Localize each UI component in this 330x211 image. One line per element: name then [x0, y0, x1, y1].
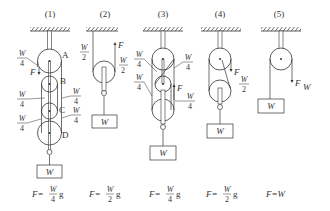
- fraction-denominator: 2: [242, 85, 246, 94]
- fraction-denominator: 2: [108, 195, 112, 204]
- tension-label: W 4: [17, 49, 37, 68]
- fraction-denominator: 4: [168, 195, 172, 204]
- fraction-numerator: W: [136, 73, 144, 82]
- leader-line: [144, 82, 152, 96]
- hook-icon: [218, 105, 223, 110]
- pulley-systems-figure: (1) W F A B C D: [0, 0, 330, 211]
- fraction-denominator: 4: [188, 102, 192, 111]
- tension-label: W 4: [17, 114, 41, 133]
- panel-1-title: (1): [45, 9, 56, 19]
- arrow-down-icon: [230, 69, 233, 72]
- fraction-denominator: 2: [82, 53, 86, 62]
- fraction-denominator: 4: [51, 195, 55, 204]
- pulley-label-d: D: [62, 130, 69, 140]
- fraction-numerator: W: [19, 49, 27, 58]
- hook-icon: [161, 125, 166, 130]
- force-value-label: W: [303, 82, 312, 92]
- formula-4: F= W 2 g: [205, 185, 238, 204]
- tension-label: W 4: [134, 73, 152, 96]
- ceiling-hatch: [261, 27, 301, 31]
- fraction-numerator: W: [19, 114, 27, 123]
- formula-suffix: g: [233, 189, 238, 199]
- fraction-numerator: W: [187, 92, 195, 101]
- tension-label: W 2: [119, 56, 128, 75]
- fraction-denominator: 4: [186, 63, 190, 72]
- panel-2-title: (2): [100, 9, 111, 19]
- tension-label: W 4: [62, 87, 81, 106]
- ceiling-hatch: [143, 27, 183, 31]
- arrow-down-icon: [291, 80, 294, 83]
- fraction-numerator: W: [81, 43, 89, 52]
- force-label: F: [233, 67, 240, 77]
- force-label: F: [117, 40, 124, 50]
- formula-lhs: F=: [148, 189, 161, 199]
- tension-label: W 2: [239, 75, 249, 94]
- force-label: F: [294, 78, 301, 88]
- fraction-denominator: 4: [74, 97, 78, 106]
- panel-4-title: (4): [215, 9, 226, 19]
- leader-line: [27, 98, 45, 99]
- formula-text: F=W: [265, 189, 287, 199]
- formula-lhs: F=: [88, 189, 101, 199]
- formula-suffix: g: [176, 189, 181, 199]
- formula-suffix: g: [116, 189, 121, 199]
- panel-5: (5) F W W: [258, 9, 312, 113]
- hanger: [102, 67, 106, 91]
- arrow-down-icon: [38, 72, 41, 75]
- fraction-numerator: W: [73, 87, 81, 96]
- fraction-denominator: 2: [121, 66, 125, 75]
- formula-lhs: F=: [205, 189, 218, 199]
- fraction-denominator: 4: [20, 59, 24, 68]
- panel-4: (4) F W W 2: [201, 9, 249, 138]
- formula-2: F= W 2 g: [88, 185, 121, 204]
- force-label: F: [29, 67, 36, 77]
- fraction-denominator: 2: [225, 195, 229, 204]
- force-label: F: [176, 83, 183, 93]
- fraction-denominator: 4: [20, 100, 24, 109]
- fraction-numerator: W: [136, 50, 144, 59]
- tension-label: W 2: [80, 43, 89, 62]
- ceiling-hatch: [30, 27, 70, 31]
- fraction-numerator: W: [185, 53, 193, 62]
- leader-line: [27, 58, 37, 65]
- pulley-label-c: C: [59, 105, 65, 115]
- fraction-numerator: W: [19, 90, 27, 99]
- fraction-numerator: W: [120, 56, 128, 65]
- leader-line: [62, 115, 71, 118]
- formula-lhs: F=: [31, 189, 44, 199]
- arrow-up-icon: [173, 84, 176, 87]
- fraction-numerator: W: [224, 185, 232, 194]
- formula-1: F= W 4 g: [31, 185, 64, 204]
- panel-3: (3) F W W 4 W: [134, 9, 195, 160]
- fraction-denominator: 4: [20, 124, 24, 133]
- hanger: [161, 90, 165, 124]
- fraction-numerator: W: [241, 75, 249, 84]
- fraction-numerator: W: [50, 185, 58, 194]
- arrow-up-icon: [114, 42, 117, 45]
- tension-label: W 4: [175, 92, 195, 111]
- fraction-denominator: 4: [74, 116, 78, 125]
- fraction-numerator: W: [107, 185, 115, 194]
- panel-3-title: (3): [158, 9, 169, 19]
- leader-line: [62, 96, 71, 98]
- formula-3: F= W 4 g: [148, 185, 181, 204]
- tension-label: W 4: [174, 53, 193, 72]
- ceiling-hatch: [201, 27, 241, 31]
- hook-icon: [102, 91, 107, 96]
- pulley-label-a: A: [62, 50, 69, 60]
- leader-line: [174, 62, 183, 68]
- fraction-denominator: 4: [137, 60, 141, 69]
- leader-line: [27, 119, 41, 123]
- hook-icon: [47, 150, 52, 155]
- tension-label: W 4: [17, 90, 45, 109]
- panel-2: (2) F W W 2 W 2: [80, 9, 128, 128]
- fraction-numerator: W: [73, 106, 81, 115]
- pulley-label-b: B: [60, 76, 66, 86]
- hanger: [218, 88, 222, 104]
- axle-icon: [280, 58, 282, 60]
- formula-suffix: g: [59, 189, 64, 199]
- panel-1: (1) W F A B C D: [17, 9, 81, 178]
- ceiling-hatch: [86, 27, 118, 31]
- axle-icon: [219, 58, 221, 60]
- formula-5: F=W: [265, 189, 287, 199]
